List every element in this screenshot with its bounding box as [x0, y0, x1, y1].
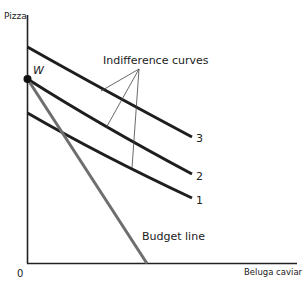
budget-line-label: Budget line [142, 230, 205, 243]
point-w-marker [24, 75, 32, 83]
indifference-curves-label: Indifference curves [103, 54, 209, 67]
pointer-curve-2 [106, 69, 139, 128]
curve-label-2: 2 [196, 170, 203, 183]
curve-label-3: 3 [196, 132, 203, 145]
x-axis-label: Beluga caviar [244, 267, 303, 277]
point-w-label: W [33, 64, 45, 77]
indifference-curve-1 [28, 113, 193, 198]
y-axis-label: Pizza [4, 11, 27, 21]
budget-line [28, 79, 148, 264]
pointer-curve-1 [132, 69, 139, 168]
origin-label: 0 [17, 268, 23, 279]
indifference-diagram: Pizza Beluga caviar 0 W Indifference cur… [0, 0, 308, 290]
curve-label-1: 1 [196, 194, 203, 207]
